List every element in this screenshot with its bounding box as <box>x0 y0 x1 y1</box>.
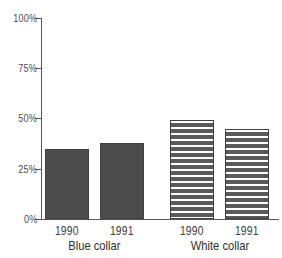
plot-area: 100% 75% 50% 25% 0% 1990 1991 1990 1991 … <box>0 0 282 258</box>
bar-blue-collar-1991 <box>100 143 144 219</box>
x-label-text: 1990 <box>180 224 204 238</box>
x-label-text: 1991 <box>110 224 134 238</box>
x-label-blue-1991: 1991 <box>100 224 144 238</box>
bar-white-collar-1991 <box>225 129 269 219</box>
bar-chart: 100% 75% 50% 25% 0% 1990 1991 1990 1991 … <box>0 0 282 258</box>
x-label-white-1990: 1990 <box>170 224 214 238</box>
y-tick-label-50: 50% <box>18 112 37 124</box>
bar-blue-collar-1990 <box>45 149 89 219</box>
group-label-blue-collar: Blue collar <box>45 238 144 253</box>
y-tick-label-25: 25% <box>18 163 37 175</box>
group-label-text: Blue collar <box>68 238 120 253</box>
x-label-white-1991: 1991 <box>225 224 269 238</box>
y-tick-label-100: 100% <box>13 12 37 24</box>
x-axis-line <box>41 219 279 220</box>
y-axis-line <box>41 18 42 220</box>
bar-white-collar-1990 <box>170 120 214 219</box>
x-label-blue-1990: 1990 <box>45 224 89 238</box>
group-label-text: White collar <box>190 238 248 253</box>
y-tick-label-0: 0% <box>23 213 37 225</box>
y-tick-label-75: 75% <box>18 62 37 74</box>
x-label-text: 1990 <box>55 224 79 238</box>
group-label-white-collar: White collar <box>170 238 269 253</box>
x-label-text: 1991 <box>235 224 259 238</box>
